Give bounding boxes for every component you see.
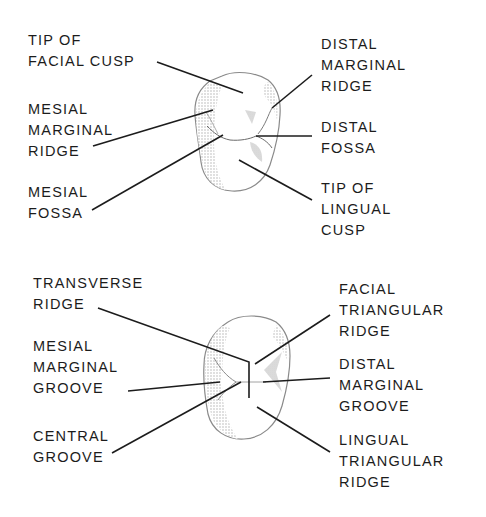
label-line: GROOVE bbox=[33, 378, 118, 399]
label-line: FOSSA bbox=[321, 138, 378, 159]
label-line: GROOVE bbox=[33, 447, 109, 468]
label-line: TIP OF bbox=[28, 30, 135, 51]
label-line: FACIAL bbox=[339, 279, 444, 300]
label-tip-of-facial-cusp: TIP OF FACIAL CUSP bbox=[28, 30, 135, 72]
label-line: RIDGE bbox=[321, 76, 406, 97]
label-line: MARGINAL bbox=[339, 375, 424, 396]
label-line: MARGINAL bbox=[28, 120, 113, 141]
label-line: FOSSA bbox=[28, 203, 88, 224]
label-facial-triangular-ridge: FACIAL TRIANGULAR RIDGE bbox=[339, 279, 444, 342]
label-mesial-marginal-ridge: MESIAL MARGINAL RIDGE bbox=[28, 99, 113, 162]
label-line: RIDGE bbox=[28, 141, 113, 162]
leader-distal-marginal-ridge bbox=[272, 75, 312, 108]
label-central-groove: CENTRAL GROOVE bbox=[33, 426, 109, 468]
label-line: CUSP bbox=[321, 220, 391, 241]
label-line: LINGUAL bbox=[339, 430, 444, 451]
label-line: DISTAL bbox=[321, 117, 378, 138]
label-line: DISTAL bbox=[339, 354, 424, 375]
label-line: MARGINAL bbox=[33, 357, 118, 378]
label-lingual-triangular-ridge: LINGUAL TRIANGULAR RIDGE bbox=[339, 430, 444, 493]
label-line: RIDGE bbox=[33, 294, 143, 315]
label-mesial-fossa: MESIAL FOSSA bbox=[28, 182, 88, 224]
label-line: FACIAL CUSP bbox=[28, 51, 135, 72]
label-transverse-ridge: TRANSVERSE RIDGE bbox=[33, 273, 143, 315]
label-line: RIDGE bbox=[339, 321, 444, 342]
bottom-tooth bbox=[204, 316, 290, 439]
label-line: MARGINAL bbox=[321, 55, 406, 76]
label-distal-fossa: DISTAL FOSSA bbox=[321, 117, 378, 159]
label-distal-marginal-groove: DISTAL MARGINAL GROOVE bbox=[339, 354, 424, 417]
label-line: MESIAL bbox=[28, 99, 113, 120]
label-line: GROOVE bbox=[339, 396, 424, 417]
label-line: MESIAL bbox=[28, 182, 88, 203]
label-line: TIP OF bbox=[321, 178, 391, 199]
label-line: CENTRAL bbox=[33, 426, 109, 447]
label-line: TRIANGULAR bbox=[339, 451, 444, 472]
label-line: DISTAL bbox=[321, 34, 406, 55]
tooth-anatomy-diagram: TIP OF FACIAL CUSP MESIAL MARGINAL RIDGE… bbox=[0, 0, 486, 517]
label-tip-of-lingual-cusp: TIP OF LINGUAL CUSP bbox=[321, 178, 391, 241]
label-line: TRANSVERSE bbox=[33, 273, 143, 294]
label-distal-marginal-ridge: DISTAL MARGINAL RIDGE bbox=[321, 34, 406, 97]
label-line: RIDGE bbox=[339, 472, 444, 493]
label-mesial-marginal-groove: MESIAL MARGINAL GROOVE bbox=[33, 336, 118, 399]
label-line: MESIAL bbox=[33, 336, 118, 357]
label-line: LINGUAL bbox=[321, 199, 391, 220]
label-line: TRIANGULAR bbox=[339, 300, 444, 321]
